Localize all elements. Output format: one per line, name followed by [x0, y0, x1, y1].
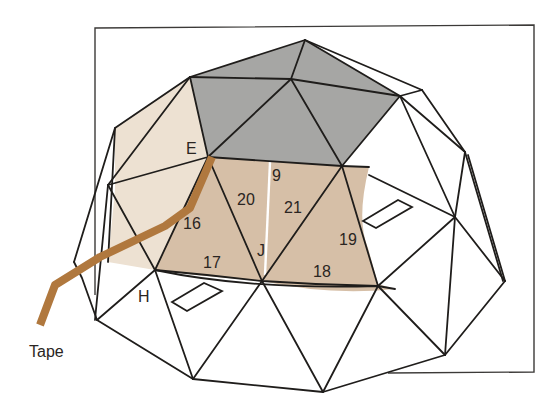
label-H: H [138, 288, 150, 305]
label-16: 16 [183, 215, 201, 232]
flat-plate-right [363, 200, 412, 228]
label-9: 9 [272, 167, 281, 184]
label-tape: Tape [29, 343, 64, 360]
dome-svg: E 9 20 21 16 19 J 17 18 H Tape [0, 0, 560, 417]
label-17: 17 [203, 254, 221, 271]
label-18: 18 [313, 263, 331, 280]
label-21: 21 [284, 199, 302, 216]
label-20: 20 [237, 191, 255, 208]
label-J: J [257, 242, 265, 259]
geodesic-dome-diagram: E 9 20 21 16 19 J 17 18 H Tape [0, 0, 560, 417]
label-E: E [186, 140, 197, 157]
flat-plate-left [172, 283, 222, 311]
gray-top-panels [190, 40, 400, 166]
label-19: 19 [339, 231, 357, 248]
